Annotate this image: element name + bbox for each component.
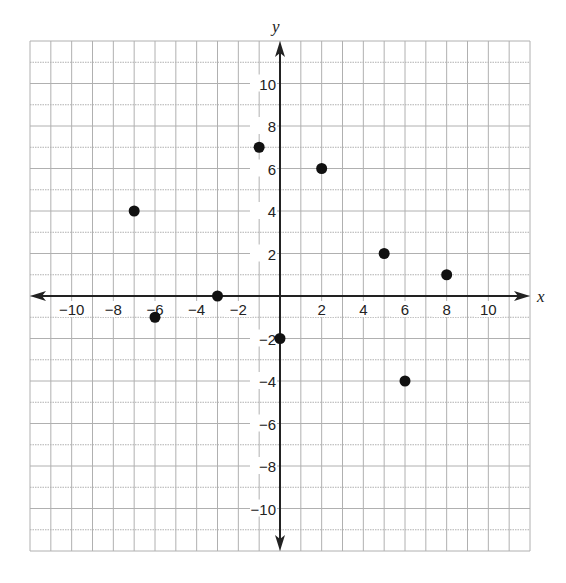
x-tick-label: 8	[442, 301, 450, 318]
x-tick-label: 6	[401, 301, 409, 318]
y-tick-label: 10	[259, 76, 276, 93]
x-tick-label: 10	[480, 301, 497, 318]
x-tick-label: −8	[105, 301, 122, 318]
data-point	[316, 163, 327, 174]
y-tick-label: −2	[259, 331, 276, 348]
y-tick-label: 6	[268, 161, 276, 178]
x-tick-label: 2	[317, 301, 325, 318]
y-tick-label: −10	[251, 501, 276, 518]
data-point	[129, 206, 140, 217]
data-point	[254, 142, 265, 153]
data-point	[441, 269, 452, 280]
data-point	[400, 376, 411, 387]
y-tick-label: −6	[259, 416, 276, 433]
y-tick-label: −8	[259, 458, 276, 475]
x-tick-label: −10	[59, 301, 84, 318]
coordinate-plane: −10−8−6−4−2246810108642−2−4−6−8−10 x y	[0, 0, 566, 583]
x-tick-label: −2	[230, 301, 247, 318]
y-tick-label: 2	[268, 246, 276, 263]
y-tick-label: 4	[268, 203, 276, 220]
y-tick-label: −4	[259, 373, 276, 390]
y-tick-label: 8	[268, 118, 276, 135]
y-axis-label: y	[270, 17, 280, 36]
data-point	[150, 312, 161, 323]
data-points	[129, 142, 453, 387]
x-tick-label: 4	[359, 301, 367, 318]
data-point	[212, 291, 223, 302]
x-tick-label: −4	[188, 301, 205, 318]
data-point	[379, 248, 390, 259]
data-point	[275, 333, 286, 344]
axes	[30, 41, 530, 551]
x-axis-label: x	[536, 287, 545, 306]
